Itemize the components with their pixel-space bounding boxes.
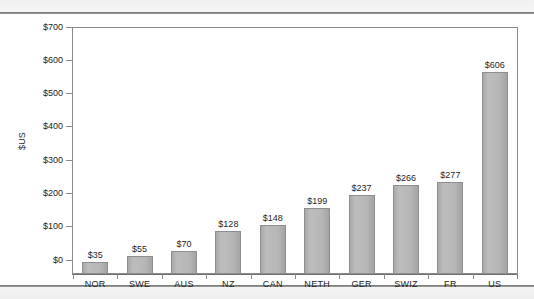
x-axis-category-label: SWE [129, 279, 150, 289]
x-axis-tick-mark [251, 274, 252, 279]
x-axis-tick-mark [117, 274, 118, 279]
y-axis-tick: $100 [0, 221, 72, 232]
bar-slot: $277 [428, 28, 472, 274]
bar-value-label: $70 [176, 239, 191, 249]
x-axis-category-label: SWIZ [394, 279, 418, 289]
bar[interactable] [393, 185, 419, 274]
x-axis-category-label: CAN [263, 279, 283, 289]
bar-value-label: $128 [218, 219, 238, 229]
bar-slot: $35 [73, 28, 117, 274]
x-axis-tick-mark [206, 274, 207, 279]
bar[interactable] [260, 225, 286, 274]
bar[interactable] [304, 208, 330, 274]
y-axis-tick-label: $700 [43, 22, 63, 33]
bar[interactable] [349, 195, 375, 274]
bar-slot: $266 [384, 28, 428, 274]
x-axis-tick-mark [295, 274, 296, 279]
bar-slot: $70 [162, 28, 206, 274]
bar-slot: $55 [117, 28, 161, 274]
bar[interactable] [482, 72, 508, 274]
bar-slot: $237 [339, 28, 383, 274]
y-axis-tick-label: $0 [53, 255, 63, 266]
x-axis-category-label: GER [351, 279, 371, 289]
bar-slot: $128 [206, 28, 250, 274]
x-axis-category-label: NZ [222, 279, 235, 289]
bar-series: $35$55$70$128$148$199$237$266$277$606 [73, 28, 517, 274]
y-axis-tick-label: $500 [43, 88, 63, 99]
bar[interactable] [171, 251, 197, 274]
bar-slot: $148 [251, 28, 295, 274]
x-axis-tick-mark [473, 274, 474, 279]
y-axis-tick-label: $100 [43, 221, 63, 232]
x-axis-tick-mark [162, 274, 163, 279]
y-axis-tick: $500 [0, 88, 72, 99]
y-axis-tick-label: $200 [43, 188, 63, 199]
y-axis-tick-label: $400 [43, 121, 63, 132]
bar-value-label: $277 [440, 170, 460, 180]
y-axis-tick: $400 [0, 121, 72, 132]
bar-chart: $US $0$100$200$300$400$500$600$700 $35$5… [0, 14, 534, 285]
x-axis-tick-mark [517, 274, 518, 279]
bar[interactable] [215, 231, 241, 274]
x-axis-category-label: AUS [174, 279, 193, 289]
bar-value-label: $606 [485, 60, 505, 70]
bar[interactable] [127, 256, 153, 274]
y-axis-tick: $700 [0, 22, 72, 33]
y-axis-tick: $0 [0, 255, 72, 266]
bar-slot: $606 [473, 28, 517, 274]
x-axis-tick-mark [428, 274, 429, 279]
bar-value-label: $148 [263, 213, 283, 223]
y-axis-tick-label: $300 [43, 155, 63, 166]
bar[interactable] [82, 262, 108, 274]
bar-value-label: $266 [396, 173, 416, 183]
bar-slot: $199 [295, 28, 339, 274]
x-axis-tick-mark [73, 274, 74, 279]
x-axis-category-label: FR [444, 279, 457, 289]
bar-value-label: $199 [307, 196, 327, 206]
x-axis-tick-mark [384, 274, 385, 279]
y-axis-tick: $600 [0, 55, 72, 66]
y-axis-tick-label: $600 [43, 55, 63, 66]
bar-value-label: $55 [132, 244, 147, 254]
bar-value-label: $35 [88, 250, 103, 260]
bar-value-label: $237 [352, 183, 372, 193]
x-axis-category-label: US [488, 279, 501, 289]
bar[interactable] [437, 182, 463, 274]
x-axis-category-label: NETH [304, 279, 330, 289]
x-axis-tick-mark [339, 274, 340, 279]
y-axis-tick: $200 [0, 188, 72, 199]
y-axis-tick: $300 [0, 155, 72, 166]
x-axis-category-label: NOR [85, 279, 106, 289]
